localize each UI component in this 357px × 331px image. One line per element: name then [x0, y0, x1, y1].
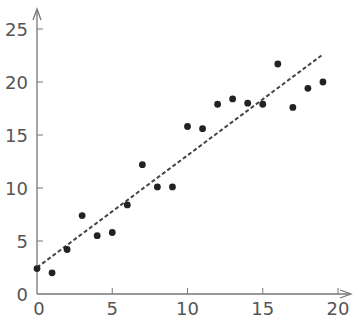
data-point [94, 232, 101, 239]
data-point [79, 212, 86, 219]
axis-ticks: 051015200510152025 [5, 19, 349, 319]
data-point [34, 265, 41, 272]
x-tick-label: 20 [327, 298, 350, 319]
y-tick-label: 20 [5, 72, 28, 93]
x-tick-label: 15 [251, 298, 274, 319]
x-tick-label: 5 [107, 298, 118, 319]
data-point [259, 101, 266, 108]
data-point [139, 161, 146, 168]
y-tick-label: 25 [5, 19, 28, 40]
data-point [169, 184, 176, 191]
data-point [305, 85, 312, 92]
data-point [320, 79, 327, 86]
y-tick-label: 15 [5, 125, 28, 146]
data-point [214, 101, 221, 108]
data-point [289, 104, 296, 111]
y-tick-label: 0 [17, 284, 28, 305]
data-points [34, 61, 327, 277]
scatter-chart: 051015200510152025 [0, 0, 357, 331]
data-point [184, 123, 191, 130]
trend-line [37, 56, 321, 268]
data-point [49, 269, 56, 276]
data-point [124, 202, 131, 209]
chart-canvas: 051015200510152025 [0, 0, 357, 331]
y-tick-label: 10 [5, 178, 28, 199]
data-point [229, 96, 236, 103]
data-point [274, 61, 281, 68]
x-tick-label: 0 [33, 298, 44, 319]
x-tick-label: 10 [176, 298, 199, 319]
data-point [199, 125, 206, 132]
trend-line-segment [37, 56, 321, 268]
data-point [154, 184, 161, 191]
data-point [109, 229, 116, 236]
data-point [244, 100, 251, 107]
axes [33, 9, 351, 298]
y-tick-label: 5 [17, 231, 28, 252]
data-point [64, 246, 71, 253]
